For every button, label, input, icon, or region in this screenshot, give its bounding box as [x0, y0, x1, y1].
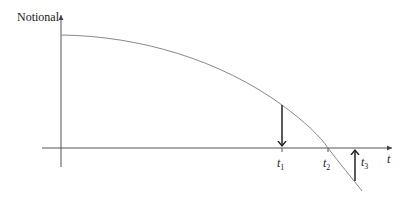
- t2-label: t2: [323, 156, 330, 172]
- t1-label: t1: [277, 156, 284, 172]
- t3-label: t3: [361, 155, 368, 171]
- notional-diagram: Notional t t1 t2 t3: [0, 0, 406, 197]
- notional-curve: [61, 35, 362, 191]
- y-axis-label: Notional: [17, 10, 60, 24]
- x-axis-label: t: [387, 152, 391, 166]
